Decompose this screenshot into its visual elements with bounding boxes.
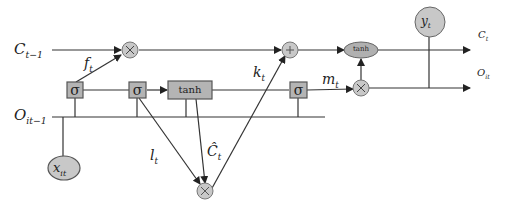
l-signal-label: lt <box>150 148 158 165</box>
tanh-box-label: tanh <box>168 85 212 95</box>
l-line <box>139 98 200 184</box>
multiply-node-forget <box>122 42 138 58</box>
lstm-diagram <box>0 0 505 213</box>
tanh-ellipse-label: tanh <box>344 46 378 53</box>
x-input-label: xit <box>53 161 66 178</box>
sigma-output-label: σ <box>290 83 307 97</box>
sigma-input-label: σ <box>129 83 146 97</box>
forget-signal-label: ft <box>84 56 93 73</box>
multiply-node-input <box>197 183 213 199</box>
m-signal-label: mt <box>322 72 339 89</box>
cell-output-label: Ct <box>478 30 488 42</box>
sigma-forget-label: σ <box>67 83 83 97</box>
y-output-label: yt <box>421 15 431 30</box>
c-hat-signal-label: Ĉt <box>207 144 221 161</box>
output-prev-label: Oit−1 <box>14 108 47 125</box>
cell-prev-label: Ct−1 <box>14 42 43 59</box>
plus-node <box>282 42 298 58</box>
output-label: Oit <box>477 68 490 80</box>
multiply-node-output <box>353 80 369 96</box>
k-line <box>211 56 285 190</box>
k-signal-label: kt <box>253 65 265 82</box>
c-hat-line <box>196 99 205 183</box>
forget-line <box>76 55 121 82</box>
